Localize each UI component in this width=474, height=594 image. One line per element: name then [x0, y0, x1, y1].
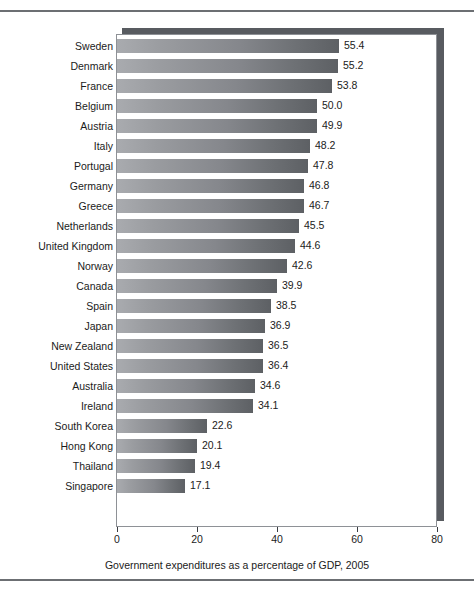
figure-container: Sweden55.4Denmark55.2France53.8Belgium50… [0, 0, 474, 594]
bar-row: Canada39.9 [0, 276, 474, 296]
bar [117, 179, 304, 193]
bar-value-label: 19.4 [200, 458, 220, 472]
category-label: Singapore [65, 479, 113, 493]
bar [117, 159, 308, 173]
bar [117, 299, 271, 313]
bar-track [117, 159, 437, 173]
bar-row: Netherlands45.5 [0, 216, 474, 236]
bar-row: Portugal47.8 [0, 156, 474, 176]
bar-track [117, 479, 437, 493]
bar [117, 199, 304, 213]
bar-row: Greece46.7 [0, 196, 474, 216]
bar [117, 59, 338, 73]
bar [117, 339, 263, 353]
x-tick-mark [357, 527, 358, 532]
bar-value-label: 22.6 [212, 418, 232, 432]
bar-value-label: 34.1 [258, 398, 278, 412]
category-label: Japan [84, 319, 113, 333]
category-label: New Zealand [51, 339, 113, 353]
bar-value-label: 36.4 [268, 358, 288, 372]
bar [117, 319, 265, 333]
bar [117, 139, 310, 153]
x-tick-label: 20 [191, 533, 203, 546]
bar-track [117, 79, 437, 93]
x-tick-label: 60 [351, 533, 363, 546]
bar-value-label: 42.6 [292, 258, 312, 272]
category-label: Hong Kong [60, 439, 113, 453]
bar-row: Italy48.2 [0, 136, 474, 156]
bar-track [117, 419, 437, 433]
bar-row: Ireland34.1 [0, 396, 474, 416]
category-label: Thailand [73, 459, 113, 473]
bar [117, 419, 207, 433]
category-label: Norway [77, 259, 113, 273]
bar-track [117, 459, 437, 473]
axis-caption: Government expenditures as a percentage … [0, 558, 474, 572]
bar-row: Belgium50.0 [0, 96, 474, 116]
bar [117, 259, 287, 273]
bar-row: South Korea22.6 [0, 416, 474, 436]
bar-row: Denmark55.2 [0, 56, 474, 76]
page-rule-top [0, 10, 474, 12]
bar-row: United Kingdom44.6 [0, 236, 474, 256]
bar-row: Japan36.9 [0, 316, 474, 336]
bar-track [117, 219, 437, 233]
bar-value-label: 45.5 [304, 218, 324, 232]
bar [117, 239, 295, 253]
bar-track [117, 279, 437, 293]
category-label: Portugal [74, 159, 113, 173]
bar-row: Thailand19.4 [0, 456, 474, 476]
category-label: Australia [72, 379, 113, 393]
x-axis: 020406080 [0, 527, 474, 557]
bar-value-label: 39.9 [282, 278, 302, 292]
bar [117, 279, 277, 293]
bar-row: Sweden55.4 [0, 36, 474, 56]
bar [117, 439, 197, 453]
bar-track [117, 59, 437, 73]
bar-value-label: 36.9 [270, 318, 290, 332]
bar-row: Hong Kong20.1 [0, 436, 474, 456]
category-label: Denmark [70, 59, 113, 73]
bar-value-label: 53.8 [337, 78, 357, 92]
bar [117, 119, 317, 133]
category-label: Sweden [75, 39, 113, 53]
x-tick-label: 0 [114, 533, 120, 546]
bar-value-label: 50.0 [322, 98, 342, 112]
bar-track [117, 119, 437, 133]
bar-row: Austria49.9 [0, 116, 474, 136]
x-tick-mark [437, 527, 438, 532]
bar-value-label: 34.6 [260, 378, 280, 392]
bar-row: Spain38.5 [0, 296, 474, 316]
bar-row: France53.8 [0, 76, 474, 96]
bar-value-label: 46.7 [309, 198, 329, 212]
category-label: Greece [79, 199, 113, 213]
bar-track [117, 139, 437, 153]
bar-value-label: 55.2 [343, 58, 363, 72]
bar-value-label: 38.5 [276, 298, 296, 312]
bar [117, 79, 332, 93]
bar-value-label: 47.8 [313, 158, 333, 172]
bar-value-label: 17.1 [190, 478, 210, 492]
bar-value-label: 49.9 [322, 118, 342, 132]
category-label: Spain [86, 299, 113, 313]
bar-track [117, 99, 437, 113]
bar-row: United States36.4 [0, 356, 474, 376]
bar-track [117, 39, 437, 53]
bar-track [117, 239, 437, 253]
bar-rows: Sweden55.4Denmark55.2France53.8Belgium50… [0, 36, 474, 496]
category-label: France [80, 79, 113, 93]
bar [117, 379, 255, 393]
bar-value-label: 20.1 [202, 438, 222, 452]
bar-track [117, 179, 437, 193]
bar-value-label: 48.2 [315, 138, 335, 152]
bar [117, 39, 339, 53]
x-tick-label: 40 [271, 533, 283, 546]
x-tick-mark [197, 527, 198, 532]
bar [117, 399, 253, 413]
bar-track [117, 259, 437, 273]
bar-row: Singapore17.1 [0, 476, 474, 496]
x-tick-label: 80 [431, 533, 443, 546]
category-label: Italy [94, 139, 113, 153]
category-label: United Kingdom [38, 239, 113, 253]
category-label: Canada [76, 279, 113, 293]
